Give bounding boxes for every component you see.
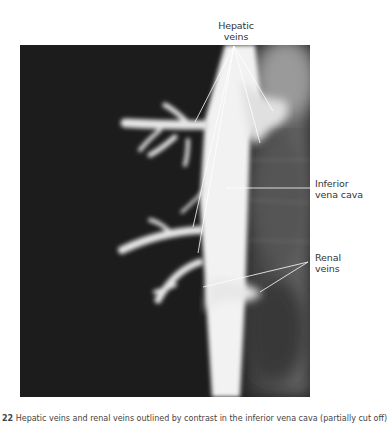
label-line: veins [214, 31, 258, 42]
label-line: veins [315, 263, 341, 274]
caption-text: Hepatic veins and renal veins outlined b… [16, 414, 387, 423]
caption-number: 22 [2, 414, 13, 423]
label-line: Hepatic [214, 20, 258, 31]
label-line: Inferior [315, 178, 363, 189]
inferior-vena-cava-label: Inferior vena cava [315, 178, 363, 200]
figure-caption: 22 Hepatic veins and renal veins outline… [2, 414, 387, 423]
hepatic-veins-label: Hepatic veins [214, 20, 258, 42]
label-line: vena cava [315, 189, 363, 200]
label-line: Renal [315, 252, 341, 263]
renal-veins-label: Renal veins [315, 252, 341, 274]
